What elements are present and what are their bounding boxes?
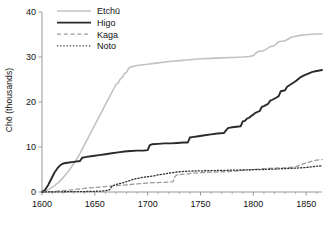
chart-figure: Chō (thousands) 010203040160016501700175… [0,0,330,225]
axis-layer: 010203040160016501700175018001850 [26,7,322,208]
y-tick-label: 20 [26,97,36,107]
x-tick-label: 1600 [32,199,52,209]
x-tick-label: 1800 [243,199,263,209]
y-tick-label: 30 [26,52,36,62]
y-tick-label: 40 [26,7,36,17]
chart-canvas: 010203040160016501700175018001850 EtchūH… [0,0,330,225]
legend-layer: EtchūHigoKagaNoto [57,6,120,51]
x-tick-label: 1750 [190,199,210,209]
y-tick-label: 10 [26,142,36,152]
legend-label-etch: Etchū [97,6,120,16]
series-line-etch [42,34,322,192]
x-tick-label: 1700 [138,199,158,209]
legend-label-noto: Noto [97,41,116,51]
x-tick-label: 1650 [85,199,105,209]
series-line-kaga [42,160,322,192]
y-tick-label: 0 [31,187,36,197]
series-layer [42,34,322,192]
series-line-higo [42,70,322,192]
legend-label-kaga: Kaga [97,30,118,40]
x-tick-label: 1850 [296,199,316,209]
legend-label-higo: Higo [97,18,116,28]
